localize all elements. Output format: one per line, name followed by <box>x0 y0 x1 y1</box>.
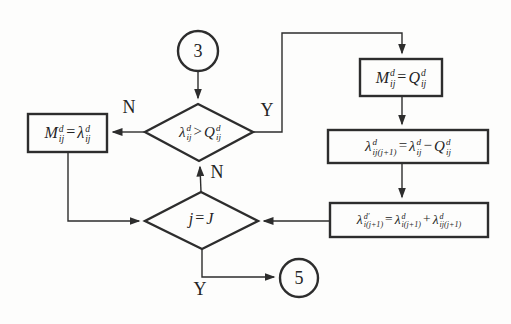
process-lambda-carryover-label: λdij(j+1)=λdij−Qdij <box>328 130 488 163</box>
process-m-eq-q-label: Mdij=Qdij <box>360 59 442 96</box>
connector-5-label: 5 <box>279 258 319 298</box>
edge-left-process-to-decision2 <box>68 152 139 221</box>
connector-3-label: 3 <box>178 31 218 71</box>
process-m-eq-lambda-label: Mdij=λdij <box>28 114 107 152</box>
branch-label-yes-right: Y <box>256 99 278 121</box>
edge-decision2-yes-to-exit <box>202 249 274 277</box>
branch-label-yes-exit: Y <box>189 278 211 300</box>
flowchart-canvas: 3 λdij>Qdij Mdij=λdij Mdij=Qdij λdij(j+1… <box>0 0 511 324</box>
edge-decision2-no-to-decision1 <box>200 167 201 192</box>
branch-label-no-loop: N <box>206 161 228 183</box>
branch-label-no-left: N <box>118 96 140 118</box>
process-lambda-sum-label: λd′i(j+1)=λdi(j+1)+λdij(j+1) <box>330 203 488 237</box>
decision1-condition: λdij>Qdij <box>145 108 255 156</box>
decision2-condition: j=J <box>146 197 256 241</box>
